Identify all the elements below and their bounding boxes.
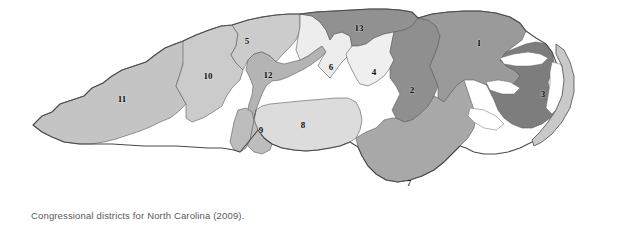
- district-label-13: 13: [355, 23, 365, 33]
- district-label-4: 4: [372, 67, 377, 77]
- map-container: 1 2 3 4 5 6 7 8 9 10 11 12 13: [0, 0, 624, 200]
- district-label-9: 9: [259, 125, 264, 135]
- district-label-2: 2: [410, 85, 415, 95]
- district-label-10: 10: [204, 71, 214, 81]
- district-label-1: 1: [477, 38, 482, 48]
- district-label-3: 3: [541, 89, 546, 99]
- figure-congressional-districts-map: 1 2 3 4 5 6 7 8 9 10 11 12 13 Congressio…: [0, 0, 624, 243]
- district-shape-11[interactable]: [33, 41, 186, 144]
- north-carolina-district-map: 1 2 3 4 5 6 7 8 9 10 11 12 13: [0, 0, 624, 200]
- district-label-11: 11: [118, 94, 127, 104]
- district-label-7: 7: [407, 178, 412, 188]
- district-label-12: 12: [264, 70, 274, 80]
- district-shapes: [33, 9, 556, 182]
- figure-caption: Congressional districts for North Caroli…: [31, 209, 591, 222]
- district-label-5: 5: [245, 36, 250, 46]
- district-label-8: 8: [301, 120, 306, 130]
- district-label-6: 6: [329, 62, 334, 72]
